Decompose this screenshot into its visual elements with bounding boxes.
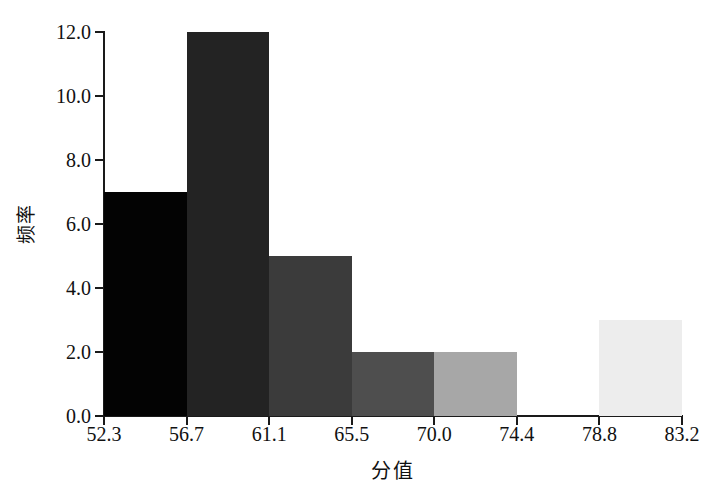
y-tick-mark [95, 223, 104, 225]
plot-area [104, 32, 682, 416]
x-tick-label: 83.2 [665, 423, 700, 446]
y-tick-label: 10.0 [56, 85, 91, 108]
histogram-bar [187, 32, 270, 416]
x-tick-label: 65.5 [334, 423, 369, 446]
y-axis-tick-labels: 0.02.04.06.08.010.012.0 [0, 0, 100, 496]
x-tick-label: 56.7 [169, 423, 204, 446]
histogram-bar [104, 192, 187, 416]
y-tick-label: 4.0 [66, 277, 91, 300]
x-tick-label: 61.1 [252, 423, 287, 446]
y-axis-title: 频率 [11, 204, 38, 244]
histogram-bar [599, 320, 682, 416]
histogram-bar [434, 352, 517, 416]
histogram-chart: 0.02.04.06.08.010.012.0 52.356.761.165.5… [0, 0, 723, 496]
histogram-bar [352, 352, 435, 416]
y-tick-label: 12.0 [56, 21, 91, 44]
y-tick-mark [95, 351, 104, 353]
x-tick-label: 70.0 [417, 423, 452, 446]
x-axis-title: 分值 [371, 455, 415, 484]
y-tick-label: 8.0 [66, 149, 91, 172]
histogram-bar [269, 256, 352, 416]
x-tick-label: 78.8 [582, 423, 617, 446]
y-tick-label: 2.0 [66, 341, 91, 364]
y-tick-mark [95, 95, 104, 97]
x-tick-label: 74.4 [499, 423, 534, 446]
x-tick-label: 52.3 [87, 423, 122, 446]
y-tick-label: 6.0 [66, 213, 91, 236]
y-tick-mark [95, 31, 104, 33]
y-tick-mark [95, 159, 104, 161]
y-tick-mark [95, 287, 104, 289]
